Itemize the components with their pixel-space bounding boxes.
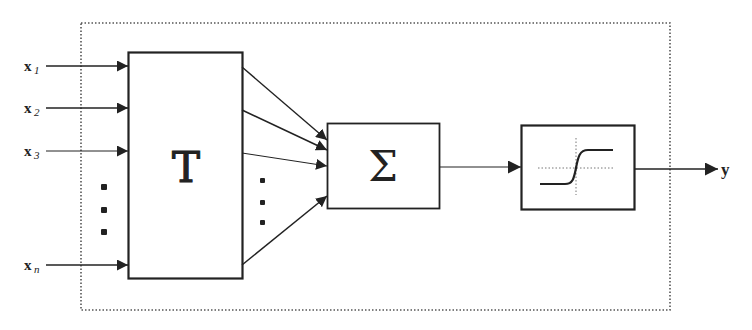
input-label-xn: x n [24,257,40,275]
sum-block: Σ [328,124,440,209]
svg-text:x: x [24,143,32,159]
connection-3 [242,153,327,166]
svg-text:3: 3 [33,149,40,161]
input-label-x2: x 2 [24,100,40,118]
transform-block: T [129,53,243,279]
svg-text:x: x [24,100,32,116]
svg-text:x: x [24,257,32,273]
input-label-x3: x 3 [24,143,40,161]
transform-label: T [172,143,200,192]
output-label: y [721,160,730,179]
svg-text:n: n [34,263,40,275]
neuron-diagram: x 1 x 2 x 3 x n T Σ [0,0,752,330]
activation-block [522,126,635,210]
connection-1 [242,67,327,140]
svg-text:2: 2 [34,106,40,118]
sum-label: Σ [368,142,398,191]
connection-n [242,196,327,265]
connection-2 [242,110,327,150]
input-label-x1: x 1 [24,58,40,76]
connection-ellipsis-icon [260,178,265,225]
svg-text:x: x [24,58,32,74]
svg-text:1: 1 [34,64,40,76]
input-ellipsis-icon [101,184,107,235]
